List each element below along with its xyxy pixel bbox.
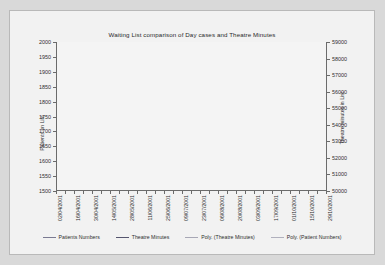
legend-label: Patients Numbers	[59, 234, 100, 240]
x-tick	[74, 191, 75, 194]
x-tick	[272, 191, 273, 194]
legend-swatch-icon	[43, 237, 56, 238]
y-tick-right	[327, 158, 330, 159]
x-tick	[101, 191, 102, 194]
y-tick-label-right: 51000	[332, 171, 347, 177]
x-tick	[110, 191, 111, 194]
x-tick	[56, 191, 57, 194]
y-tick-label-right: 56000	[332, 89, 347, 95]
x-tick	[137, 191, 138, 194]
y-tick-right	[327, 59, 330, 60]
legend-label: Poly. (Patient Numbers)	[287, 234, 342, 240]
x-tick	[299, 191, 300, 194]
y-tick-label-right: 59000	[332, 39, 347, 45]
legend-swatch-icon	[271, 237, 284, 238]
x-tick	[182, 191, 183, 194]
legend-item[interactable]: Patients Numbers	[43, 234, 100, 240]
y-axis-title-right: Theatre minutes in List	[339, 92, 345, 144]
y-axis-left-line	[56, 42, 57, 191]
chart-title: Waiting List comparison of Day cases and…	[10, 31, 374, 38]
legend-label: Poly. (Theatre Minutes)	[201, 234, 255, 240]
legend-label: Theatre Minutes	[132, 234, 169, 240]
x-tick	[155, 191, 156, 194]
y-tick-right	[327, 191, 330, 192]
x-tick-label: 20/08/2001	[238, 195, 244, 221]
x-tick-label: 11/06/2001	[148, 195, 154, 221]
y-tick-right	[327, 42, 330, 43]
x-tick-label: 30/04/2001	[94, 195, 100, 221]
x-tick	[92, 191, 93, 194]
y-tick-right	[327, 174, 330, 175]
legend-swatch-icon	[185, 237, 198, 238]
y-tick-label-right: 50000	[332, 188, 347, 194]
x-tick	[119, 191, 120, 194]
y-tick-right	[327, 75, 330, 76]
y-tick-label-right: 58000	[332, 56, 347, 62]
legend-swatch-icon	[116, 237, 129, 238]
x-tick	[236, 191, 237, 194]
x-axis-line	[56, 190, 327, 191]
y-tick-label-left: 1550	[39, 173, 51, 179]
x-tick	[191, 191, 192, 194]
y-tick-label-left: 1600	[39, 158, 51, 164]
y-tick-label-left: 1650	[39, 143, 51, 149]
legend-item[interactable]: Poly. (Patient Numbers)	[271, 234, 342, 240]
y-tick-label-left: 1800	[39, 99, 51, 105]
y-tick-label-left: 1850	[39, 84, 51, 90]
y-axis-right-line	[326, 42, 327, 191]
y-tick-label-left: 2000	[39, 39, 51, 45]
y-tick-label-right: 53000	[332, 138, 347, 144]
x-tick	[263, 191, 264, 194]
x-tick-label: 06/08/2001	[220, 195, 226, 221]
x-tick-label: 29/10/2001	[328, 195, 334, 221]
x-tick	[326, 191, 327, 194]
x-tick	[281, 191, 282, 194]
y-tick-right	[327, 141, 330, 142]
legend-item[interactable]: Poly. (Theatre Minutes)	[185, 234, 255, 240]
y-tick-label-left: 1900	[39, 69, 51, 75]
x-tick-label: 02/04/2001	[58, 195, 64, 221]
x-tick	[290, 191, 291, 194]
x-tick	[317, 191, 318, 194]
x-tick	[254, 191, 255, 194]
x-tick-label: 23/07/2001	[202, 195, 208, 221]
plot-background	[56, 42, 327, 191]
x-tick	[308, 191, 309, 194]
x-tick	[128, 191, 129, 194]
y-tick-label-left: 1950	[39, 54, 51, 60]
x-tick	[245, 191, 246, 194]
y-tick-label-left: 1750	[39, 114, 51, 120]
chart-legend: Patients NumbersTheatre MinutesPoly. (Th…	[10, 234, 374, 240]
x-tick-label: 14/05/2001	[112, 195, 118, 221]
x-tick-label: 16/04/2001	[76, 195, 82, 221]
y-tick-label-left: 1700	[39, 128, 51, 134]
x-tick	[65, 191, 66, 194]
x-tick	[164, 191, 165, 194]
x-tick	[173, 191, 174, 194]
y-tick-right	[327, 92, 330, 93]
y-tick-label-right: 52000	[332, 155, 347, 161]
x-tick	[227, 191, 228, 194]
x-tick	[209, 191, 210, 194]
x-tick-label: 01/10/2001	[292, 195, 298, 221]
legend-item[interactable]: Theatre Minutes	[116, 234, 169, 240]
x-tick	[146, 191, 147, 194]
x-tick-label: 25/06/2001	[166, 195, 172, 221]
x-tick	[83, 191, 84, 194]
y-tick-right	[327, 125, 330, 126]
y-tick-label-left: 1500	[39, 188, 51, 194]
y-tick-label-right: 54000	[332, 122, 347, 128]
x-tick	[200, 191, 201, 194]
plot-area: 1500155016001650170017501800185019001950…	[56, 42, 327, 191]
chart-page: Waiting List comparison of Day cases and…	[0, 0, 385, 265]
y-tick-label-right: 57000	[332, 72, 347, 78]
x-tick-label: 09/07/2001	[184, 195, 190, 221]
y-tick-label-right: 55000	[332, 105, 347, 111]
x-tick-label: 15/10/2001	[310, 195, 316, 221]
x-tick-label: 17/09/2001	[274, 195, 280, 221]
x-tick-label: 28/05/2001	[130, 195, 136, 221]
x-tick-label: 03/09/2001	[256, 195, 262, 221]
chart-frame: Waiting List comparison of Day cases and…	[9, 10, 375, 255]
y-tick-right	[327, 108, 330, 109]
x-tick	[218, 191, 219, 194]
